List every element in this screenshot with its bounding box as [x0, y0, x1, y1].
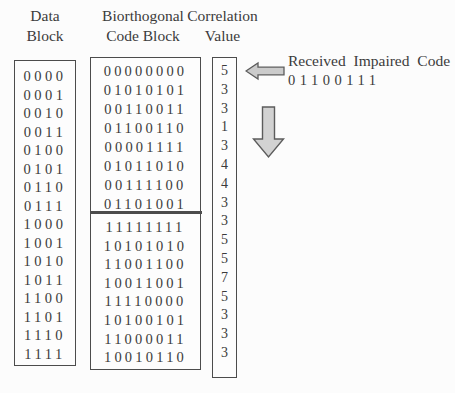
- data-row: 0011: [15, 123, 75, 142]
- code-row: 10011001: [91, 274, 200, 293]
- received-impaired-code: Received Impaired Code 01100111: [288, 51, 450, 89]
- code-row: 01010101: [91, 81, 200, 100]
- data-row: 1100: [15, 289, 75, 308]
- data-block-header: Data Block: [10, 6, 80, 46]
- correlation-value: 3: [213, 194, 236, 213]
- correlation-header-line2: Value: [180, 26, 265, 46]
- data-row: 1001: [15, 234, 75, 253]
- correlation-header-line1: Correlation: [180, 6, 265, 26]
- correlation-header: Correlation Value: [180, 6, 265, 46]
- received-impaired-code-label: Received Impaired Code: [288, 51, 450, 70]
- data-row: 0000: [15, 67, 75, 86]
- correlation-value: 7: [213, 269, 236, 288]
- code-row: 11000011: [91, 330, 200, 349]
- correlation-value-box: 5 3 3 1 3 4 4 3 3 5 5 7 5 3 3 3: [212, 57, 237, 378]
- correlation-value: 5: [213, 288, 236, 307]
- data-row: 0111: [15, 197, 75, 216]
- code-row: 00000000: [91, 62, 200, 81]
- data-block-header-line1: Data: [10, 6, 80, 26]
- code-row: 01011010: [91, 157, 200, 176]
- data-row: 1111: [15, 345, 75, 364]
- code-row: 00110011: [91, 100, 200, 119]
- data-row: 0110: [15, 178, 75, 197]
- data-block-box: 0000 0001 0010 0011 0100 0101 0110 0111 …: [14, 60, 76, 366]
- correlation-value: 5: [213, 62, 236, 81]
- biorthogonal-decoding-figure: Data Block Biorthogonal Code Block Corre…: [0, 0, 455, 393]
- down-block-arrow-icon: [252, 106, 285, 159]
- code-block-upper-half: 00000000 01010101 00110011 01100110 0000…: [91, 58, 200, 212]
- received-impaired-code-value: 01100111: [288, 71, 450, 89]
- code-row: 11110000: [91, 292, 200, 311]
- code-block-divider: [90, 211, 202, 214]
- data-row: 1011: [15, 271, 75, 290]
- correlation-value: 3: [213, 344, 236, 363]
- data-row: 0010: [15, 104, 75, 123]
- correlation-value: 5: [213, 250, 236, 269]
- data-row: 1110: [15, 326, 75, 345]
- correlation-value: 1: [213, 118, 236, 137]
- correlation-value: 3: [213, 81, 236, 100]
- data-row: 1010: [15, 252, 75, 271]
- data-row: 0100: [15, 141, 75, 160]
- data-row: 1000: [15, 215, 75, 234]
- code-row: 01100110: [91, 119, 200, 138]
- code-block-box: 00000000 01010101 00110011 01100110 0000…: [90, 57, 201, 370]
- correlation-value: 3: [213, 100, 236, 119]
- code-row: 10010110: [91, 348, 200, 367]
- left-block-arrow-icon: [245, 61, 285, 81]
- correlation-value: 5: [213, 231, 236, 250]
- code-row: 11111111: [91, 218, 200, 237]
- correlation-value: 3: [213, 325, 236, 344]
- data-row: 0001: [15, 86, 75, 105]
- code-row: 11001100: [91, 255, 200, 274]
- data-block-header-line2: Block: [10, 26, 80, 46]
- code-row: 00001111: [91, 138, 200, 157]
- correlation-value: 3: [213, 137, 236, 156]
- correlation-value: 4: [213, 175, 236, 194]
- data-row: 1101: [15, 308, 75, 327]
- code-row: 10101010: [91, 237, 200, 256]
- code-block-lower-half: 11111111 10101010 11001100 10011001 1111…: [91, 215, 200, 369]
- correlation-value: 4: [213, 156, 236, 175]
- data-row: 0101: [15, 160, 75, 179]
- code-row: 00111100: [91, 176, 200, 195]
- correlation-value: 3: [213, 212, 236, 231]
- correlation-value: 3: [213, 306, 236, 325]
- code-row: 10100101: [91, 311, 200, 330]
